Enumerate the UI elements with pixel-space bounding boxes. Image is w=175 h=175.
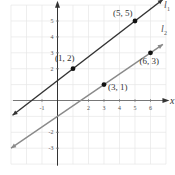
coordinate-plane: x-1234565432-2-3l1(1, 2)(5, 5)l2(3, 1)(6… xyxy=(0,0,175,175)
x-tick-label: 2 xyxy=(87,105,90,111)
x-axis-label: x xyxy=(169,95,175,106)
data-point xyxy=(133,19,138,24)
line-label-subscript: 2 xyxy=(164,30,167,36)
line-label-subscript: 1 xyxy=(167,6,170,12)
data-point-label: (1, 2) xyxy=(55,53,75,63)
data-point xyxy=(102,82,107,87)
data-point-label: (5, 5) xyxy=(113,8,133,18)
x-tick-label: 3 xyxy=(103,105,106,111)
y-tick-label: 2 xyxy=(51,66,54,72)
y-tick-label: 3 xyxy=(51,50,54,56)
data-point xyxy=(71,66,76,71)
x-tick-label: 4 xyxy=(118,105,121,111)
chart-figure: x-1234565432-2-3l1(1, 2)(5, 5)l2(3, 1)(6… xyxy=(0,0,175,175)
y-tick-label: -3 xyxy=(49,145,54,151)
x-tick-label: 5 xyxy=(134,105,137,111)
x-tick-label: 6 xyxy=(149,105,152,111)
data-point-label: (3, 1) xyxy=(108,82,128,92)
data-point-label: (6, 3) xyxy=(140,56,160,66)
data-point xyxy=(148,50,153,55)
y-tick-label: -2 xyxy=(49,129,54,135)
y-axis-arrow-icon xyxy=(55,1,60,8)
y-tick-label: 5 xyxy=(51,18,54,24)
x-tick-label: -1 xyxy=(40,105,45,111)
y-tick-label: 4 xyxy=(51,34,54,40)
